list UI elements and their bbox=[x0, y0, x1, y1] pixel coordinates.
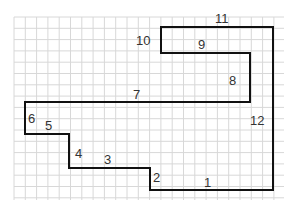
side-label-6: 6 bbox=[28, 112, 35, 125]
diagram-canvas: 123456789101112 bbox=[0, 0, 294, 207]
side-label-8: 8 bbox=[229, 74, 236, 87]
polygon-outline bbox=[0, 0, 294, 207]
side-label-4: 4 bbox=[75, 147, 82, 160]
side-label-3: 3 bbox=[104, 153, 111, 166]
side-label-7: 7 bbox=[133, 88, 140, 101]
side-label-12: 12 bbox=[250, 114, 264, 127]
side-label-1: 1 bbox=[204, 176, 211, 189]
shape-outline bbox=[25, 27, 273, 190]
side-label-2: 2 bbox=[153, 171, 160, 184]
side-label-9: 9 bbox=[198, 38, 205, 51]
side-label-5: 5 bbox=[45, 119, 52, 132]
side-label-10: 10 bbox=[136, 34, 150, 47]
side-label-11: 11 bbox=[215, 12, 229, 25]
